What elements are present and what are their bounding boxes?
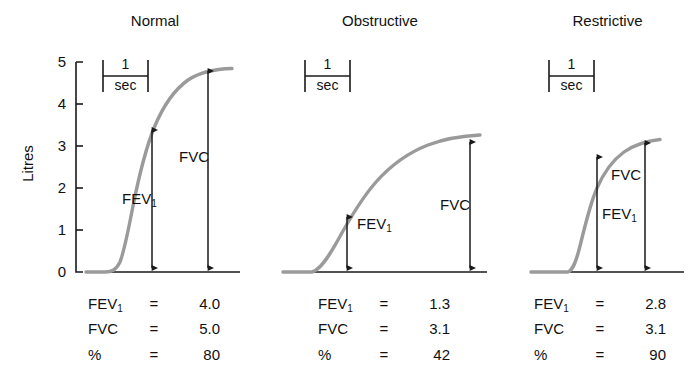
fev1-subscript: 1 — [563, 303, 569, 314]
fev1-subscript: 1 — [117, 303, 123, 314]
scale-bar-unit-obstructive: sec — [305, 77, 350, 93]
y-tick-0: 0 — [48, 263, 66, 280]
fev1-subscript: 1 — [386, 223, 392, 234]
stat-eq-percent-normal: = — [147, 346, 161, 363]
stat-value-fev1-normal: 4.0 — [186, 295, 220, 312]
stat-label-percent-normal: % — [88, 346, 101, 363]
fev1-text: FEV — [122, 190, 151, 207]
curve-normal — [86, 69, 232, 273]
stat-label-percent-obstructive: % — [318, 346, 331, 363]
fev1-text: FEV — [534, 295, 563, 312]
fev1-subscript: 1 — [631, 213, 637, 224]
panel-title-normal: Normal — [100, 12, 210, 29]
y-tick-2: 2 — [48, 179, 66, 196]
stat-eq-percent-obstructive: = — [377, 346, 391, 363]
stat-label-fev1-restrictive: FEV1 — [534, 295, 569, 312]
stat-label-fvc-restrictive: FVC — [534, 320, 564, 337]
fev1-arrow-label-normal: FEV1 — [122, 190, 157, 207]
stat-label-fev1-normal: FEV1 — [88, 295, 123, 312]
fvc-arrow-label-normal: FVC — [179, 148, 209, 165]
stat-eq-fev1-obstructive: = — [377, 295, 391, 312]
stat-eq-percent-restrictive: = — [593, 346, 607, 363]
stat-label-fvc-normal: FVC — [88, 320, 118, 337]
panel-title-obstructive: Obstructive — [315, 12, 445, 29]
scale-bar-value-normal: 1 — [103, 56, 148, 72]
fev1-text: FEV — [357, 215, 386, 232]
fev1-arrow-label-restrictive: FEV1 — [602, 205, 637, 222]
scale-bar-unit-restrictive: sec — [549, 77, 594, 93]
stat-label-percent-restrictive: % — [534, 346, 547, 363]
stat-label-fev1-obstructive: FEV1 — [318, 295, 353, 312]
stat-eq-fvc-normal: = — [147, 320, 161, 337]
scale-bar-unit-normal: sec — [103, 77, 148, 93]
stat-value-fev1-obstructive: 1.3 — [416, 295, 450, 312]
stat-eq-fev1-restrictive: = — [593, 295, 607, 312]
spirometry-figure: Normal Obstructive Restrictive Litres 5 … — [0, 0, 688, 382]
fev1-text: FEV — [318, 295, 347, 312]
fev1-arrow-label-obstructive: FEV1 — [357, 215, 392, 232]
stat-eq-fvc-obstructive: = — [377, 320, 391, 337]
fev1-subscript: 1 — [151, 198, 157, 209]
y-tick-5: 5 — [48, 53, 66, 70]
stat-value-percent-obstructive: 42 — [416, 346, 450, 363]
panel-title-restrictive: Restrictive — [545, 12, 670, 29]
fev1-subscript: 1 — [347, 303, 353, 314]
fev1-text: FEV — [602, 205, 631, 222]
scale-bar-value-obstructive: 1 — [305, 56, 350, 72]
stat-value-fvc-normal: 5.0 — [186, 320, 220, 337]
stat-label-fvc-obstructive: FVC — [318, 320, 348, 337]
y-tick-1: 1 — [48, 221, 66, 238]
y-axis — [76, 62, 83, 272]
y-tick-3: 3 — [48, 137, 66, 154]
stat-value-fvc-obstructive: 3.1 — [416, 320, 450, 337]
stat-value-percent-restrictive: 90 — [632, 346, 666, 363]
stat-value-fev1-restrictive: 2.8 — [632, 295, 666, 312]
y-tick-4: 4 — [48, 95, 66, 112]
stat-value-percent-normal: 80 — [186, 346, 220, 363]
stat-eq-fev1-normal: = — [147, 295, 161, 312]
scale-bar-value-restrictive: 1 — [549, 56, 594, 72]
fev1-text: FEV — [88, 295, 117, 312]
curve-restrictive — [531, 140, 660, 273]
y-axis-title: Litres — [19, 134, 36, 194]
stat-value-fvc-restrictive: 3.1 — [632, 320, 666, 337]
fvc-arrow-label-restrictive: FVC — [611, 166, 641, 183]
stat-eq-fvc-restrictive: = — [593, 320, 607, 337]
fvc-arrow-label-obstructive: FVC — [440, 196, 470, 213]
